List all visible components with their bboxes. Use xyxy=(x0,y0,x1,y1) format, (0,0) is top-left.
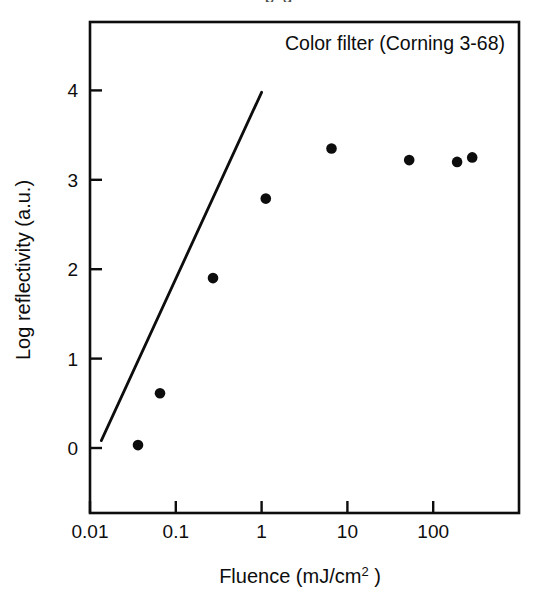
x-axis-tick-labels: 0.01 0.1 1 10 100 xyxy=(72,521,450,542)
plot-annotation: Color filter (Corning 3-68) xyxy=(285,32,505,54)
data-point xyxy=(208,273,219,284)
y-ticklabel-1: 1 xyxy=(67,349,78,370)
y-ticklabel-3: 3 xyxy=(67,170,78,191)
x-ticklabel-0.01: 0.01 xyxy=(72,521,109,542)
data-point xyxy=(261,193,272,204)
data-point xyxy=(452,157,463,168)
y-ticklabel-2: 2 xyxy=(67,259,78,280)
data-points xyxy=(133,143,478,450)
x-axis-label-close: ) xyxy=(369,565,381,587)
data-point xyxy=(326,143,337,154)
x-axis-label-unit: mJ/cm xyxy=(303,565,362,587)
figure-container: p g 0 1 2 3 4 xyxy=(0,0,559,610)
x-ticklabel-10: 10 xyxy=(337,521,358,542)
data-point xyxy=(467,152,478,163)
x-axis-label: Fluence (mJ/cm2 ) xyxy=(219,564,381,587)
y-ticklabel-4: 4 xyxy=(67,80,78,101)
y-axis-tick-labels: 0 1 2 3 4 xyxy=(67,80,78,459)
x-ticklabel-0.1: 0.1 xyxy=(163,521,189,542)
x-ticklabel-1: 1 xyxy=(256,521,267,542)
cut-off-caption-fragment: p g xyxy=(0,0,559,2)
data-point xyxy=(133,440,144,451)
y-axis-label: Log reflectivity (a.u.) xyxy=(12,180,34,360)
x-ticklabel-100: 100 xyxy=(417,521,449,542)
y-ticklabel-0: 0 xyxy=(67,438,78,459)
x-axis-ticks xyxy=(90,501,433,513)
data-point xyxy=(155,388,166,399)
data-point xyxy=(404,155,415,166)
fit-line xyxy=(101,92,261,440)
reflectivity-vs-fluence-chart: 0 1 2 3 4 0.01 0.1 1 10 100 Color filter… xyxy=(0,0,559,610)
axes-frame xyxy=(90,22,519,513)
y-axis-ticks xyxy=(90,90,102,448)
x-axis-label-superscript: 2 xyxy=(361,564,368,579)
plot-box-spines xyxy=(90,22,519,513)
x-axis-label-main: Fluence ( xyxy=(219,565,303,587)
